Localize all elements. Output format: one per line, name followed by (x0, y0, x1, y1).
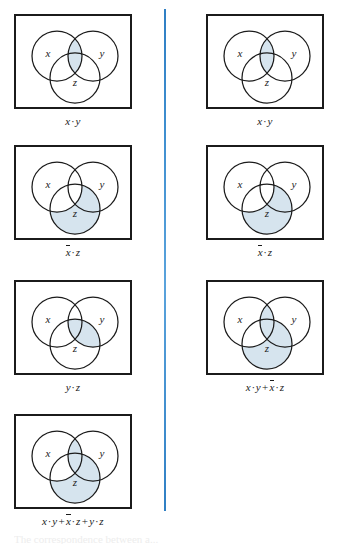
caption-term-not-x: x (66, 515, 71, 527)
label-z: z (72, 342, 78, 354)
caption-term-z: z (76, 381, 81, 393)
label-z: z (264, 207, 270, 219)
label-x: x (237, 313, 243, 325)
venn-box: x y z (14, 280, 132, 375)
panel-notx-dot-z-right: x y z x·z (206, 145, 324, 258)
caption-term-y: y (267, 115, 272, 127)
caption-term-not-x: x (258, 246, 263, 258)
caption-term-z: z (76, 515, 81, 527)
label-y: y (99, 178, 105, 190)
caption-term-z: z (280, 381, 285, 393)
label-x: x (237, 178, 243, 190)
panel-caption: x·y (206, 115, 324, 127)
panel-caption: x·z (206, 246, 324, 258)
label-z: z (264, 76, 270, 88)
panel-y-dot-z-left: x y z y·z (14, 280, 132, 393)
label-y: y (99, 447, 105, 459)
column-divider (164, 9, 166, 511)
venn-svg-p5: x y z (16, 282, 134, 377)
venn-box: x y z (14, 14, 132, 109)
caption-op-plus: + (81, 515, 90, 527)
venn-svg-p7: x y z (16, 416, 134, 511)
label-z: z (72, 476, 78, 488)
label-x: x (45, 47, 51, 59)
caption-term-y: y (75, 115, 80, 127)
venn-box: x y z (14, 145, 132, 240)
caption-term-z: z (99, 515, 104, 527)
label-y: y (291, 178, 297, 190)
panel-caption: x·y+x·z (206, 381, 324, 393)
label-x: x (237, 47, 243, 59)
caption-term-z: z (76, 246, 81, 258)
label-x: x (45, 447, 51, 459)
panel-xy-plus-notxz-plus-yz: x y z x·y+x·z+y·z (14, 414, 132, 527)
panel-xy-plus-notxz: x y z x·y+x·z (206, 280, 324, 393)
venn-figure-page: x y z x·y x y z x·y (0, 0, 338, 544)
caption-op-plus: + (57, 515, 66, 527)
caption-term-x: x (65, 115, 70, 127)
label-y: y (291, 47, 297, 59)
caption-term-not-x: x (270, 381, 275, 393)
label-z: z (264, 342, 270, 354)
caption-term-z: z (268, 246, 273, 258)
venn-box: x y z (206, 280, 324, 375)
caption-op-plus: + (261, 381, 270, 393)
label-x: x (45, 313, 51, 325)
label-z: z (72, 207, 78, 219)
panel-caption: x·y+x·z+y·z (14, 515, 132, 527)
panel-notx-dot-z-left: x y z x·z (14, 145, 132, 258)
venn-box: x y z (14, 414, 132, 509)
caption-term-x: x (257, 115, 262, 127)
venn-svg-p1: x y z (16, 16, 134, 111)
venn-box: x y z (206, 145, 324, 240)
page-cutoff-text: The correspondence between a... (14, 533, 314, 544)
panel-x-dot-y-right: x y z x·y (206, 14, 324, 127)
label-y: y (291, 313, 297, 325)
label-x: x (45, 178, 51, 190)
venn-box: x y z (206, 14, 324, 109)
label-z: z (72, 76, 78, 88)
label-y: y (99, 47, 105, 59)
venn-svg-p4: x y z (208, 147, 326, 242)
panel-caption: x·z (14, 246, 132, 258)
venn-svg-p3: x y z (16, 147, 134, 242)
caption-term-not-x: x (66, 246, 71, 258)
panel-caption: x·y (14, 115, 132, 127)
venn-svg-p2: x y z (208, 16, 326, 111)
panel-x-dot-y-left: x y z x·y (14, 14, 132, 127)
panel-caption: y·z (14, 381, 132, 393)
venn-svg-p6: x y z (208, 282, 326, 377)
label-y: y (99, 313, 105, 325)
